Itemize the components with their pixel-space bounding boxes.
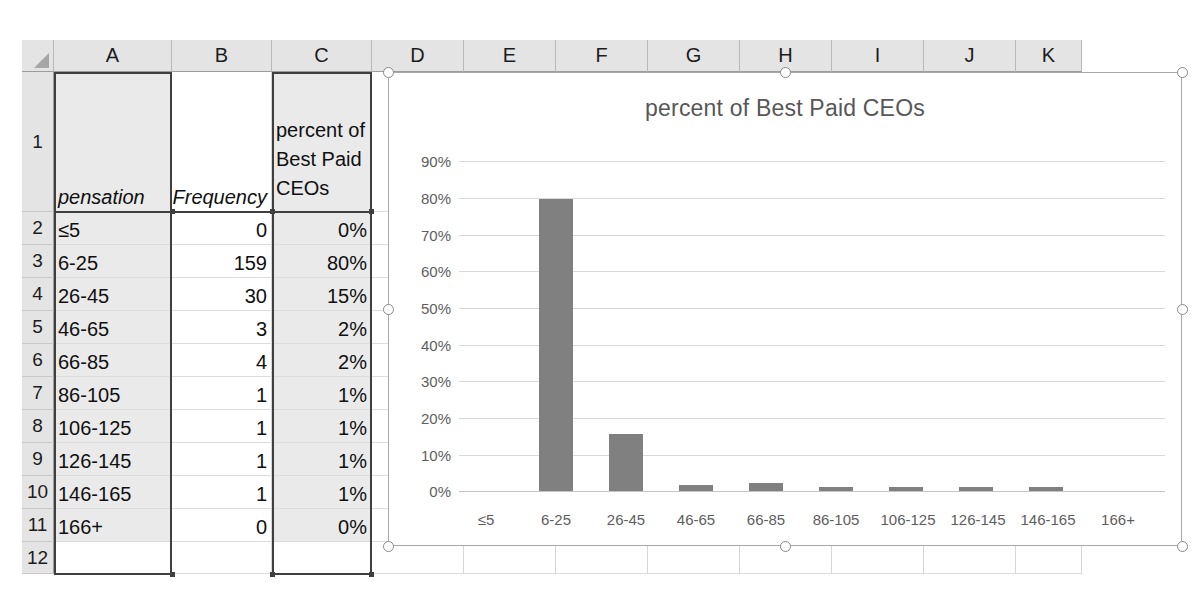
cell-a11[interactable]: 166+ [54, 509, 172, 542]
cell-a7[interactable]: 86-105 [54, 377, 172, 410]
cell-c3[interactable]: 80% [272, 245, 372, 278]
bar-3[interactable] [679, 485, 713, 491]
cell-c4[interactable]: 15% [272, 278, 372, 311]
bar-2[interactable] [609, 434, 643, 491]
cell-b11[interactable]: 0 [172, 509, 272, 542]
chart-handle-bottom-right[interactable] [1177, 541, 1188, 552]
cell-a8[interactable]: 106-125 [54, 410, 172, 443]
cell-c2[interactable]: 0% [272, 212, 372, 245]
row-header-column: 1 2 3 4 5 6 7 8 9 10 11 12 [22, 72, 54, 574]
column-header-f[interactable]: F [556, 40, 648, 72]
chart-handle-top-left[interactable] [383, 67, 394, 78]
row-header-7[interactable]: 7 [22, 377, 54, 410]
chart-handle-top-right[interactable] [1177, 67, 1188, 78]
cell-b2[interactable]: 0 [172, 212, 272, 245]
cell-c9[interactable]: 1% [272, 443, 372, 476]
column-header-j[interactable]: J [924, 40, 1016, 72]
range-handle-mid-left[interactable] [170, 209, 175, 214]
cell-b5[interactable]: 3 [172, 311, 272, 344]
cell-a6[interactable]: 66-85 [54, 344, 172, 377]
range-handle-bot-right[interactable] [369, 572, 374, 577]
cell-c8[interactable]: 1% [272, 410, 372, 443]
chart-handle-bottom-center[interactable] [780, 541, 791, 552]
cell-b6[interactable]: 4 [172, 344, 272, 377]
bar-6[interactable] [889, 487, 923, 491]
cell-b7[interactable]: 1 [172, 377, 272, 410]
chart-handle-middle-right[interactable] [1177, 304, 1188, 315]
chart-handle-bottom-left[interactable] [383, 541, 394, 552]
cell-g12[interactable] [648, 542, 740, 574]
bar-4[interactable] [749, 483, 783, 491]
bar-5[interactable] [819, 487, 853, 491]
cell-b1[interactable]: Frequency [172, 72, 272, 212]
column-header-e[interactable]: E [464, 40, 556, 72]
table-row [54, 542, 1082, 574]
cell-c7[interactable]: 1% [272, 377, 372, 410]
x-tick-label: 126-145 [950, 511, 1005, 528]
y-tick-label: 90% [393, 153, 451, 170]
row-header-10[interactable]: 10 [22, 476, 54, 509]
cell-b12[interactable] [172, 542, 272, 574]
cell-a4[interactable]: 26-45 [54, 278, 172, 311]
row-header-2[interactable]: 2 [22, 212, 54, 245]
cell-b3[interactable]: 159 [172, 245, 272, 278]
row-header-9[interactable]: 9 [22, 443, 54, 476]
row-header-12[interactable]: 12 [22, 542, 54, 574]
y-tick-label: 50% [393, 300, 451, 317]
bar-8[interactable] [1029, 487, 1063, 491]
y-tick-label: 70% [393, 227, 451, 244]
chart-handle-middle-left[interactable] [383, 304, 394, 315]
column-header-row: A B C D E F G H I J K [22, 40, 1082, 72]
row-header-4[interactable]: 4 [22, 278, 54, 311]
x-tick-label: 166+ [1101, 511, 1135, 528]
cell-b10[interactable]: 1 [172, 476, 272, 509]
column-header-c[interactable]: C [272, 40, 372, 72]
row-header-11[interactable]: 11 [22, 509, 54, 542]
row-header-6[interactable]: 6 [22, 344, 54, 377]
select-all-corner[interactable] [22, 40, 54, 72]
cell-i12[interactable] [832, 542, 924, 574]
column-header-k[interactable]: K [1016, 40, 1082, 72]
column-header-a[interactable]: A [54, 40, 172, 72]
range-handle-bot-left[interactable] [170, 572, 175, 577]
chart-object[interactable]: percent of Best Paid CEOs 90% 80% 70% 60… [388, 72, 1182, 546]
row-header-3[interactable]: 3 [22, 245, 54, 278]
cell-c6[interactable]: 2% [272, 344, 372, 377]
cell-c10[interactable]: 1% [272, 476, 372, 509]
cell-a5[interactable]: 46-65 [54, 311, 172, 344]
cell-a10[interactable]: 146-165 [54, 476, 172, 509]
chart-handle-top-center[interactable] [780, 67, 791, 78]
row-header-5[interactable]: 5 [22, 311, 54, 344]
cell-f12[interactable] [556, 542, 648, 574]
column-header-b[interactable]: B [172, 40, 272, 72]
cell-e12[interactable] [464, 542, 556, 574]
range-handle-mid-mid[interactable] [270, 209, 275, 214]
cell-c1[interactable]: percent of Best Paid CEOs [272, 72, 372, 212]
column-header-i[interactable]: I [832, 40, 924, 72]
bar-1[interactable] [539, 199, 573, 491]
cell-b4[interactable]: 30 [172, 278, 272, 311]
cell-a1[interactable]: pensation [54, 72, 172, 212]
cell-a12[interactable] [54, 542, 172, 574]
y-tick-label: 10% [393, 447, 451, 464]
x-tick-label: 146-165 [1020, 511, 1075, 528]
row-header-1[interactable]: 1 [22, 72, 54, 212]
range-handle-mid-right[interactable] [369, 209, 374, 214]
cell-c11[interactable]: 0% [272, 509, 372, 542]
column-header-g[interactable]: G [648, 40, 740, 72]
cell-c5[interactable]: 2% [272, 311, 372, 344]
row-header-8[interactable]: 8 [22, 410, 54, 443]
x-tick-label: 86-105 [813, 511, 860, 528]
cell-a2[interactable]: ≤5 [54, 212, 172, 245]
cell-c12[interactable] [272, 542, 372, 574]
cell-k12[interactable] [1016, 542, 1082, 574]
range-header-divider [54, 211, 372, 213]
bar-7[interactable] [959, 487, 993, 491]
cell-j12[interactable] [924, 542, 1016, 574]
cell-a3[interactable]: 6-25 [54, 245, 172, 278]
cell-b8[interactable]: 1 [172, 410, 272, 443]
cell-a9[interactable]: 126-145 [54, 443, 172, 476]
cell-b9[interactable]: 1 [172, 443, 272, 476]
range-handle-bot-mid[interactable] [270, 572, 275, 577]
y-tick-label: 60% [393, 263, 451, 280]
